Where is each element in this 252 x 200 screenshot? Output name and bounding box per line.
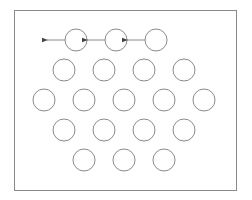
circle-r1-c1 [65,29,87,51]
diagram-frame [15,11,237,191]
circle-array-diagram [0,0,252,200]
circle-r4-c3 [133,119,155,141]
circle-r3-c3 [113,89,135,111]
circle-r3-c2 [73,89,95,111]
circle-r2-c3 [133,59,155,81]
circle-r5-c1 [73,149,95,171]
circle-group [33,29,215,171]
circle-r3-c5 [193,89,215,111]
circle-r2-c4 [173,59,195,81]
circle-r1-c3 [145,29,167,51]
circle-r2-c2 [93,59,115,81]
circle-r4-c1 [53,119,75,141]
circle-r4-c4 [173,119,195,141]
circle-r5-c2 [113,149,135,171]
circle-r1-c2 [105,29,127,51]
circle-r3-c4 [153,89,175,111]
circle-r5-c3 [153,149,175,171]
circle-r2-c1 [53,59,75,81]
circle-r3-c1 [33,89,55,111]
circle-r4-c2 [93,119,115,141]
